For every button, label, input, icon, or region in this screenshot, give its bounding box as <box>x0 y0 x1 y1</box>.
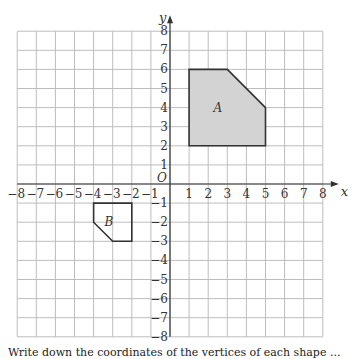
shape-label-B: B <box>103 215 113 229</box>
x-tick-label: −8 <box>7 187 25 201</box>
x-tick-label: 2 <box>204 187 212 201</box>
x-axis-label: x <box>341 184 349 199</box>
x-tick-label: 8 <box>319 187 327 201</box>
x-tick-label: −2 <box>122 187 140 201</box>
x-tick-label: −6 <box>46 187 64 201</box>
shape-label-A: A <box>212 101 222 115</box>
x-tick-label: 6 <box>281 187 289 201</box>
y-tick-label: −6 <box>150 292 168 306</box>
x-tick-label: −7 <box>26 187 44 201</box>
y-tick-label: −4 <box>150 253 168 267</box>
x-tick-label: 3 <box>223 187 231 201</box>
coordinate-grid-figure: ABxyO−8−7−6−5−4−3−2−11234567887654321−1−… <box>0 0 356 345</box>
y-tick-label: −8 <box>150 330 168 344</box>
y-tick-label: 2 <box>160 139 168 153</box>
y-tick-label: 3 <box>160 120 168 134</box>
x-tick-label: −3 <box>103 187 121 201</box>
y-tick-label: 8 <box>160 24 168 38</box>
y-axis-label: y <box>158 10 167 25</box>
y-tick-label: −2 <box>150 215 168 229</box>
y-tick-label: 6 <box>160 62 168 76</box>
x-tick-label: 1 <box>185 187 193 201</box>
y-tick-label: 7 <box>160 43 168 57</box>
y-tick-label: −1 <box>150 196 168 210</box>
x-tick-label: −5 <box>65 187 83 201</box>
x-axis-arrow-icon <box>331 181 339 187</box>
y-tick-label: −5 <box>150 273 168 287</box>
y-tick-label: 1 <box>160 158 168 172</box>
question-text: Write down the coordinates of the vertic… <box>8 346 340 359</box>
x-tick-label: 4 <box>243 187 251 201</box>
origin-label: O <box>157 171 167 185</box>
x-tick-label: 5 <box>262 187 270 201</box>
x-tick-label: 7 <box>300 187 308 201</box>
y-tick-label: 4 <box>160 101 168 115</box>
y-tick-label: −3 <box>150 234 168 248</box>
y-tick-label: 5 <box>160 82 168 96</box>
shape-A <box>189 69 265 145</box>
x-tick-label: −4 <box>84 187 102 201</box>
y-axis-arrow-icon <box>167 15 173 23</box>
y-tick-label: −7 <box>150 311 168 325</box>
